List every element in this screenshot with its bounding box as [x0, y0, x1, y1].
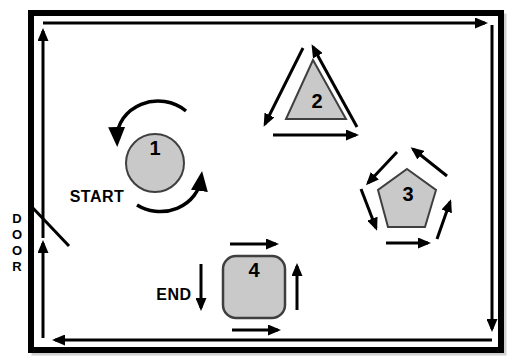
station-4-number: 4	[248, 260, 259, 280]
room-diagram: START END DOOR 1 2 3 4	[0, 0, 520, 364]
station-1-number: 1	[149, 138, 160, 158]
start-label: START	[70, 189, 125, 205]
diagram-canvas	[0, 0, 520, 364]
station-2-number: 2	[311, 91, 322, 111]
end-label: END	[156, 287, 191, 303]
station-3-number: 3	[402, 184, 413, 204]
door-label: DOOR	[11, 211, 24, 275]
